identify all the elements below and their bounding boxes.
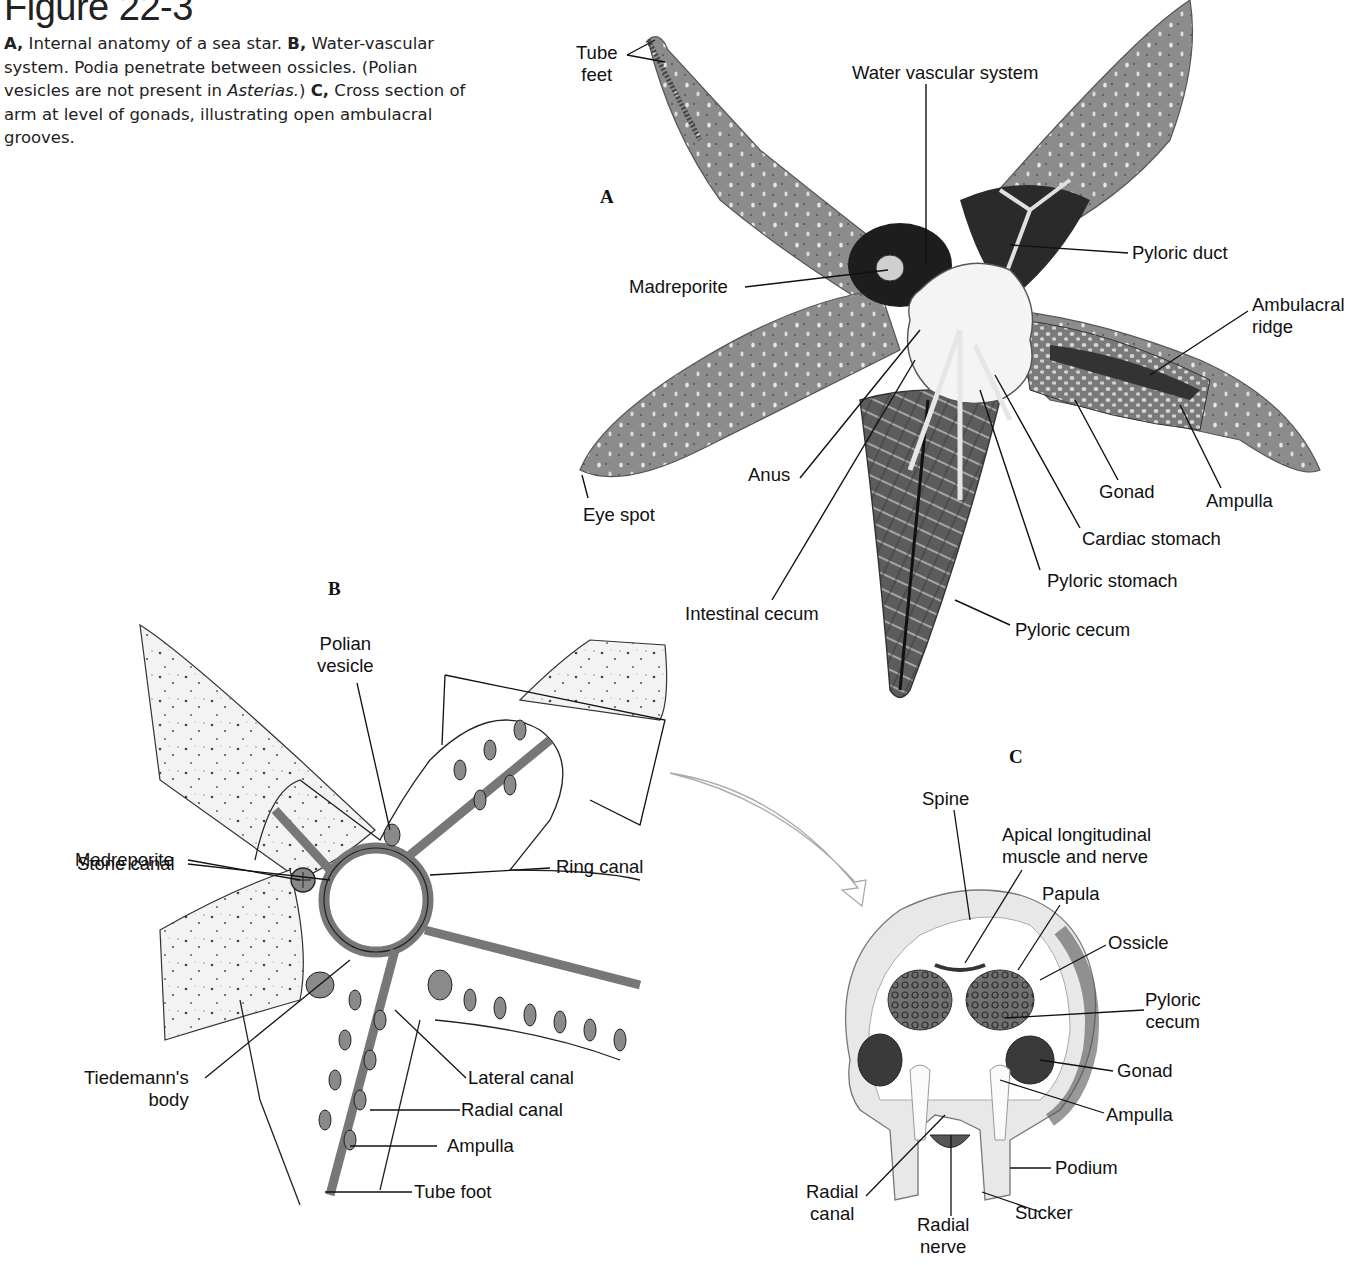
label-lateral-canal: Lateral canal	[468, 1067, 574, 1089]
label-ring-canal: Ring canal	[556, 856, 643, 878]
label-apical-longitudinal-muscle: Apical longitudinal muscle and nerve	[1002, 824, 1151, 868]
figure-title: Figure 22-3	[4, 0, 193, 29]
label-madreporite-a: Madreporite	[629, 276, 728, 298]
label-pyloric-cecum-c: Pyloric cecum	[1145, 989, 1201, 1033]
label-papula: Papula	[1042, 883, 1100, 905]
arrow-b-to-c	[670, 773, 866, 906]
label-pyloric-duct: Pyloric duct	[1132, 242, 1228, 264]
label-ampulla-b: Ampulla	[447, 1135, 514, 1157]
panel-letter-a: A	[600, 186, 614, 208]
caption-b-text-end: )	[299, 81, 311, 100]
water-vascular-illustration	[140, 625, 667, 1205]
label-eye-spot: Eye spot	[583, 504, 655, 526]
label-sucker: Sucker	[1015, 1202, 1073, 1224]
label-gonad-c: Gonad	[1117, 1060, 1173, 1082]
label-ossicle: Ossicle	[1108, 932, 1169, 954]
label-radial-canal-b: Radial canal	[461, 1099, 563, 1121]
label-tiedemanns-body: Tiedemann's body	[84, 1067, 189, 1111]
label-radial-canal-c: Radial canal	[806, 1181, 858, 1225]
label-stone-canal: Stone canal	[77, 853, 175, 875]
label-podium: Podium	[1055, 1157, 1118, 1179]
label-polian-vesicle: Polian vesicle	[317, 633, 374, 677]
label-water-vascular-system: Water vascular system	[852, 62, 1038, 84]
label-pyloric-stomach: Pyloric stomach	[1047, 570, 1178, 592]
label-ampulla-a: Ampulla	[1206, 490, 1273, 512]
label-spine: Spine	[922, 788, 969, 810]
caption-a-marker: A,	[4, 34, 23, 53]
panel-letter-c: C	[1009, 746, 1023, 768]
label-ambulacral-ridge: Ambulacral ridge	[1252, 294, 1345, 338]
caption-c-marker: C,	[311, 81, 329, 100]
label-intestinal-cecum: Intestinal cecum	[685, 603, 819, 625]
caption-genus: Asterias.	[227, 81, 299, 100]
label-gonad-a: Gonad	[1099, 481, 1155, 503]
caption-b-marker: B,	[287, 34, 306, 53]
cross-section-illustration	[846, 890, 1096, 1200]
label-pyloric-cecum-a: Pyloric cecum	[1015, 619, 1130, 641]
label-anus: Anus	[748, 464, 790, 486]
label-tube-foot: Tube foot	[414, 1181, 491, 1203]
label-tube-feet: Tube feet	[576, 42, 617, 86]
figure-caption: A, Internal anatomy of a sea star. B, Wa…	[4, 32, 474, 150]
label-cardiac-stomach: Cardiac stomach	[1082, 528, 1221, 550]
label-radial-nerve: Radial nerve	[917, 1214, 969, 1258]
panel-letter-b: B	[328, 578, 341, 600]
sea-star-illustration	[580, 0, 1320, 698]
label-ampulla-c: Ampulla	[1106, 1104, 1173, 1126]
caption-a-text: Internal anatomy of a sea star.	[23, 34, 287, 53]
